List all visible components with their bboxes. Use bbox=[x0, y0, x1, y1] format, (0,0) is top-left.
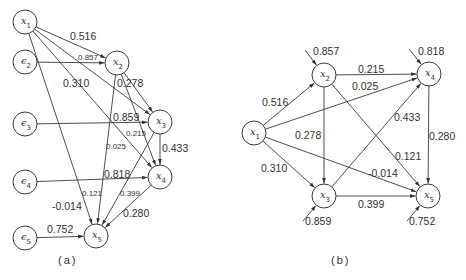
edge-x1-to-x5 bbox=[265, 137, 416, 192]
node-x4: x4 bbox=[148, 165, 172, 189]
node-x3: x3 bbox=[312, 184, 336, 208]
node-subscript: 2 bbox=[119, 63, 123, 71]
edge-e5-to-x5 bbox=[37, 236, 84, 237]
edge-weight-label: 0.310 bbox=[63, 77, 89, 89]
node-x2: x2 bbox=[312, 63, 336, 87]
node-subscript: 1 bbox=[256, 133, 260, 141]
edge-weight-label: 0.280 bbox=[123, 207, 149, 219]
edge-weight-label: -0.014 bbox=[52, 200, 82, 212]
edge-weight-label: 0.859 bbox=[113, 111, 139, 123]
panel-a-diagram: x1ϵ2ϵ3ϵ4ϵ5x2x3x4x5 0.5160.8570.3100.2780… bbox=[13, 10, 188, 266]
panel-b-edges bbox=[263, 49, 429, 221]
residual-weight-label: 0.818 bbox=[418, 45, 444, 57]
node-subscript: 5 bbox=[27, 238, 31, 246]
residual-weight-label: 0.752 bbox=[409, 215, 435, 227]
edge-weight-label: 0.433 bbox=[394, 111, 420, 123]
residual-weight-label: 0.859 bbox=[305, 215, 331, 227]
node-x2: x2 bbox=[105, 51, 129, 75]
node-x1: x1 bbox=[242, 121, 266, 145]
node-subscript: 4 bbox=[431, 74, 436, 82]
edge-weight-label: 0.399 bbox=[120, 189, 141, 198]
edge-weight-label: 0.857 bbox=[78, 53, 99, 62]
edge-weight-label: 0.025 bbox=[106, 142, 127, 151]
edge-weight-label: 0.399 bbox=[358, 198, 384, 210]
node-e3: ϵ3 bbox=[13, 112, 37, 136]
edge-weight-label: 0.752 bbox=[47, 223, 73, 235]
node-subscript: 5 bbox=[98, 236, 102, 244]
edge-weight-label: 0.516 bbox=[70, 30, 96, 42]
residual-weight-label: 0.857 bbox=[313, 45, 339, 57]
edge-weight-label: 0.433 bbox=[162, 142, 188, 154]
panel-a-caption: (a) bbox=[58, 254, 77, 266]
node-subscript: 2 bbox=[326, 75, 330, 83]
node-subscript: 5 bbox=[430, 196, 434, 204]
node-subscript: 3 bbox=[162, 122, 166, 130]
node-e5: ϵ5 bbox=[13, 226, 37, 250]
edge-e4-to-x4 bbox=[37, 177, 148, 181]
edge-weight-label: 0.516 bbox=[262, 96, 288, 108]
panel-b-nodes: x1x2x3x4x5 bbox=[242, 62, 441, 208]
node-subscript: 3 bbox=[27, 124, 31, 132]
edge-weight-label: 0.278 bbox=[295, 129, 321, 141]
node-e2: ϵ2 bbox=[13, 50, 37, 74]
node-subscript: 3 bbox=[326, 196, 330, 204]
edge-weight-label: 0.121 bbox=[395, 150, 421, 162]
edge-weight-label: 0.280 bbox=[429, 130, 455, 142]
edge-weight-label: 0.278 bbox=[117, 77, 143, 89]
edge-weight-label: 0.121 bbox=[82, 189, 103, 198]
edge-weight-label: 0.215 bbox=[358, 63, 384, 75]
edge-e2-to-x2 bbox=[37, 62, 105, 63]
panel-b-caption: (b) bbox=[331, 254, 350, 266]
panel-b-diagram: x1x2x3x4x5 0.5160.3100.025-0.0140.2150.2… bbox=[242, 45, 455, 266]
edge-weight-label: 0.215 bbox=[126, 129, 147, 138]
node-x1: x1 bbox=[13, 10, 37, 34]
node-subscript: 2 bbox=[27, 62, 31, 70]
node-subscript: 4 bbox=[27, 182, 32, 190]
node-x5: x5 bbox=[84, 224, 108, 248]
edge-weight-label: 0.025 bbox=[352, 80, 378, 92]
node-subscript: 1 bbox=[27, 22, 31, 30]
edge-weight-label: 0.818 bbox=[104, 168, 130, 180]
node-x3: x3 bbox=[148, 110, 172, 134]
node-e4: ϵ4 bbox=[13, 170, 37, 194]
edge-weight-label: 0.310 bbox=[261, 162, 287, 174]
edge-weight-label: -0.014 bbox=[368, 167, 398, 179]
node-x4: x4 bbox=[417, 62, 441, 86]
node-subscript: 4 bbox=[162, 177, 167, 185]
path-diagrams: x1ϵ2ϵ3ϵ4ϵ5x2x3x4x5 0.5160.8570.3100.2780… bbox=[0, 0, 466, 280]
node-x5: x5 bbox=[416, 184, 440, 208]
